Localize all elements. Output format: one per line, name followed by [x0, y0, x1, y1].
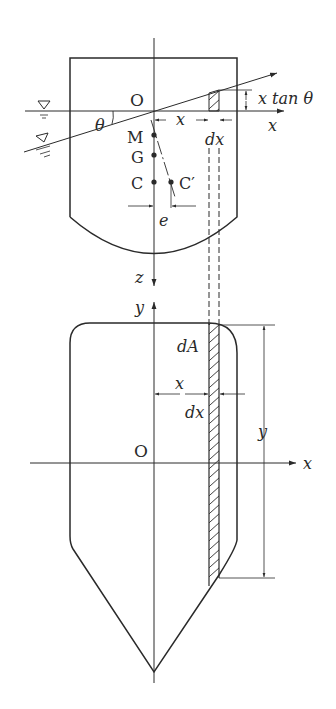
label-c: C [131, 174, 143, 193]
label-m: M [127, 128, 143, 147]
top-view: O θ M G C C′ e x dx x x tan θ z [24, 38, 313, 326]
label-x-axis-bottom: x [303, 454, 312, 473]
area-element-strip [209, 320, 219, 590]
wedge-strip [209, 90, 219, 111]
bottom-view: y dA x dx y O x [30, 298, 312, 683]
label-g: G [131, 148, 144, 167]
label-y-axis: y [134, 298, 145, 317]
label-z-axis: z [134, 268, 144, 287]
point-g [151, 152, 156, 157]
label-x-axis-top: x [268, 116, 277, 135]
label-theta: θ [95, 116, 105, 135]
label-x-distance-bottom: x [175, 374, 184, 393]
label-origin-top: O [130, 90, 144, 110]
diagram-canvas: O θ M G C C′ e x dx x x tan θ z [0, 0, 336, 709]
label-origin-bottom: O [134, 441, 148, 461]
label-dx-top: dx [205, 130, 224, 149]
point-c [151, 179, 156, 184]
label-e: e [159, 211, 168, 230]
theta-angle-arc [112, 111, 113, 124]
label-da: dA [177, 337, 199, 356]
heeled-waterline [24, 73, 277, 152]
label-y-length: y [257, 422, 268, 441]
water-level-symbol-icon [38, 101, 50, 118]
label-x-distance: x [176, 110, 185, 129]
label-dx-bottom: dx [185, 403, 204, 422]
label-c-prime: C′ [179, 174, 195, 193]
point-m [151, 132, 156, 137]
label-x-tan-theta: x tan θ [258, 89, 313, 108]
